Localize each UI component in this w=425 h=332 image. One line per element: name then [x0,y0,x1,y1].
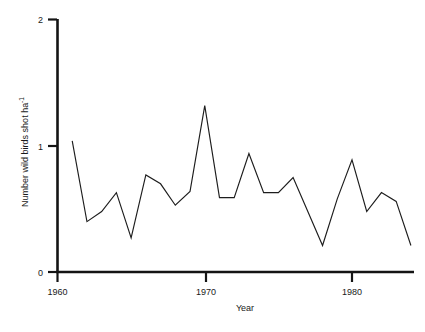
line-chart-plot: 2 1 0 1960 1970 1980 Year Number wild bi… [0,0,425,332]
x-tick-label-1980: 1980 [342,287,362,297]
y-tick-label-2: 2 [38,15,43,25]
y-axis-title: Number wild birds shot ha-1 [18,97,30,207]
y-tick-label-1: 1 [38,142,43,152]
chart-figure: 2 1 0 1960 1970 1980 Year Number wild bi… [0,0,425,332]
y-axis-title-superscript: -1 [18,97,25,103]
y-tick-label-0: 0 [38,268,43,278]
x-tick-label-1960: 1960 [47,287,67,297]
x-axis-title: Year [236,303,254,313]
y-axis-title-main: Number wild birds shot ha [20,103,30,207]
y-axis-title-group: Number wild birds shot ha-1 [18,97,30,207]
chart-background [0,0,425,332]
x-tick-label-1970: 1970 [196,287,216,297]
